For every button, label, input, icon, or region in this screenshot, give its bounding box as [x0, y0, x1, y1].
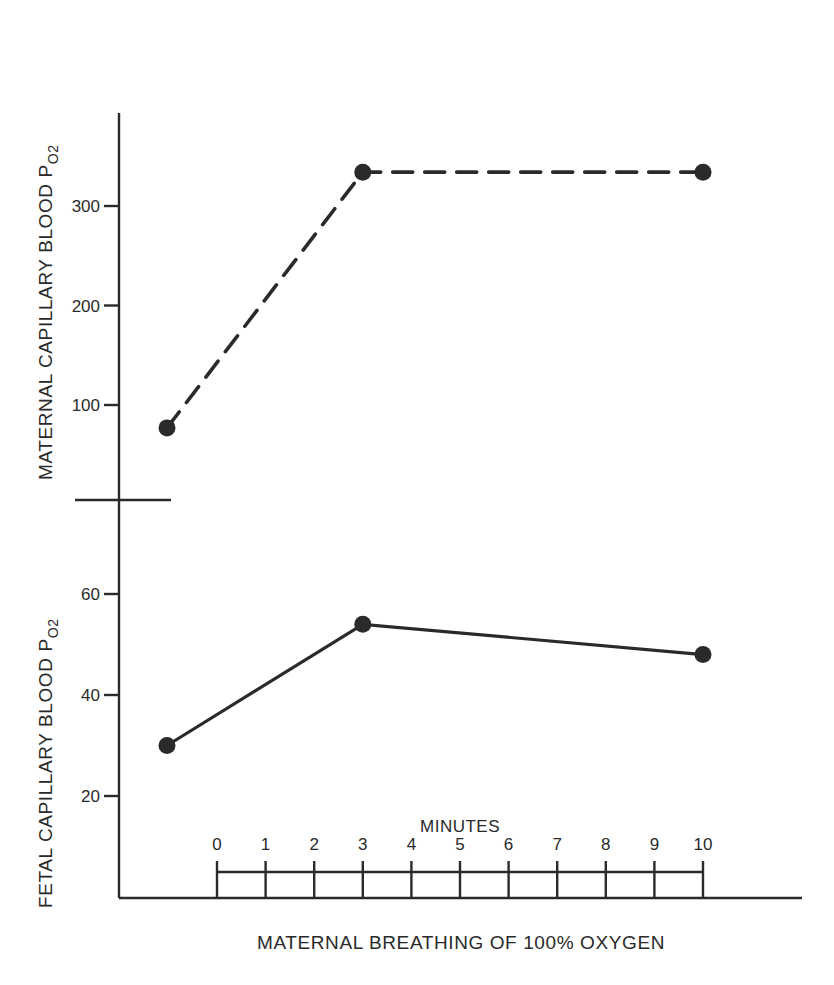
maternal-series [159, 164, 712, 437]
minute-tick-label: 6 [504, 835, 513, 854]
data-point-marker [695, 646, 712, 663]
data-point-marker [159, 419, 176, 436]
data-point-marker [159, 737, 176, 754]
series-line [167, 624, 703, 745]
minutes-label: MINUTES [420, 817, 500, 836]
minute-tick-label: 0 [212, 835, 221, 854]
minute-tick-label: 7 [552, 835, 561, 854]
data-point-marker [354, 616, 371, 633]
y-tick-label: 60 [81, 585, 100, 604]
minute-tick-label: 5 [455, 835, 464, 854]
fetal-series [159, 616, 712, 754]
y-tick-label: 100 [72, 396, 100, 415]
maternal-y-axis-title: MATERNAL CAPILLARY BLOOD PO2 [35, 144, 61, 480]
minute-tick-label: 9 [650, 835, 659, 854]
minute-tick-label: 3 [358, 835, 367, 854]
fetal-y-axis-title: FETAL CAPILLARY BLOOD PO2 [35, 618, 61, 908]
chart: 100200300 204060 012345678910 MATERNAL C… [0, 0, 834, 985]
y-tick-label: 40 [81, 686, 100, 705]
data-point-marker [695, 164, 712, 181]
minute-tick-label: 10 [694, 835, 713, 854]
y-tick-label: 200 [72, 297, 100, 316]
minute-tick-label: 4 [407, 835, 416, 854]
series-line [167, 172, 703, 428]
minute-tick-label: 8 [601, 835, 610, 854]
maternal-y-ticks: 100200300 [72, 197, 119, 415]
data-point-marker [354, 164, 371, 181]
fetal-y-ticks: 204060 [81, 585, 119, 806]
minute-tick-label: 2 [309, 835, 318, 854]
x-axis-title: MATERNAL BREATHING OF 100% OXYGEN [257, 932, 665, 953]
minute-tick-label: 1 [261, 835, 270, 854]
y-tick-label: 300 [72, 197, 100, 216]
minutes-scale: 012345678910 [212, 835, 712, 898]
y-tick-label: 20 [81, 787, 100, 806]
